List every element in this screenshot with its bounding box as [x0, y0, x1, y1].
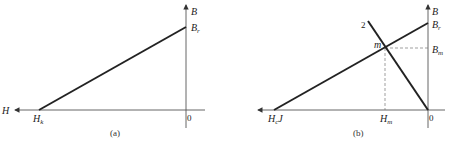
b-axis-label: B	[191, 6, 197, 17]
br-label: Br	[432, 19, 441, 32]
line-2-label: 2	[361, 20, 366, 30]
point-m-label: m	[374, 39, 381, 50]
bm-label: Bm	[432, 44, 443, 57]
origin-label: 0	[187, 113, 192, 123]
b-axis-label: B	[432, 6, 438, 17]
load-line-2	[368, 21, 428, 110]
figure-canvas: B Br H Hk 0 (a) B Br Bm 2 m HcJ Hm 0 (b)	[0, 0, 452, 158]
hm-label: Hm	[379, 113, 392, 126]
panel-b-caption: (b)	[353, 128, 364, 138]
hcj-label: HcJ	[267, 113, 283, 126]
hk-label: Hk	[32, 113, 44, 126]
panel-a-caption: (a)	[110, 128, 120, 138]
panel-a: B Br H Hk 0 (a)	[1, 5, 205, 138]
demagnetization-line	[39, 27, 186, 110]
demagnetization-line	[274, 23, 428, 110]
h-axis-label: H	[1, 105, 10, 116]
br-label: Br	[191, 22, 200, 35]
panel-b: B Br Bm 2 m HcJ Hm 0 (b)	[258, 5, 445, 138]
origin-label: 0	[429, 113, 434, 123]
